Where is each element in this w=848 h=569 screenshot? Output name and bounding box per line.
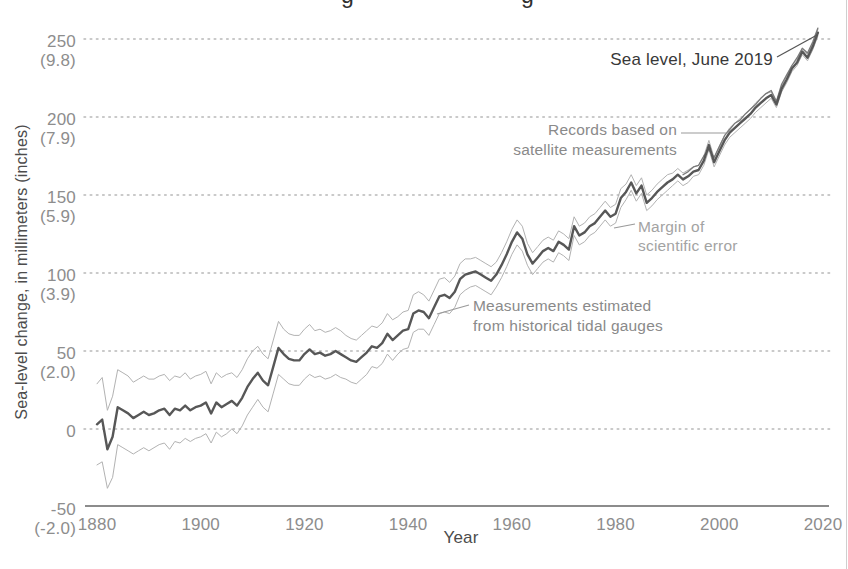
annotation-sea-level-june-2019: Sea level, June 2019 <box>610 50 773 70</box>
x-axis-title: Year <box>443 528 478 548</box>
x-tick-label-1880: 1880 <box>78 515 117 535</box>
page-edge-line <box>846 0 847 569</box>
chart-canvas <box>0 0 848 569</box>
y-tick-label-0: 0 <box>0 422 76 441</box>
y-tick-label-200: 200(7.9) <box>0 110 76 148</box>
sea-level-chart-page: g g Sea-level change, in millimeters (in… <box>0 0 848 569</box>
y-tick-label-150: 150(5.9) <box>0 188 76 226</box>
x-tick-label-1960: 1960 <box>493 515 532 535</box>
error-band-lower-line <box>97 36 818 488</box>
x-tick-label-1900: 1900 <box>181 515 220 535</box>
y-tick-label-100: 100(3.9) <box>0 266 76 304</box>
leader-margin-of-error <box>614 224 635 228</box>
x-tick-label-2000: 2000 <box>700 515 739 535</box>
y-tick-label-50: 50(2.0) <box>0 344 76 382</box>
y-tick-label-250: 250(9.8) <box>0 32 76 70</box>
y-tick-label--50: -50(-2.0) <box>0 500 76 538</box>
annotation-tidal-gauges: Measurements estimated from historical t… <box>473 296 663 336</box>
x-tick-label-1940: 1940 <box>389 515 428 535</box>
x-tick-label-2020: 2020 <box>804 515 843 535</box>
annotation-margin-of-error: Margin of scientific error <box>638 217 738 255</box>
annotation-satellite-records: Records based on satellite measurements <box>513 120 677 160</box>
x-tick-label-1980: 1980 <box>596 515 635 535</box>
x-tick-label-1920: 1920 <box>285 515 324 535</box>
leader-tidal-gauges <box>437 305 469 314</box>
